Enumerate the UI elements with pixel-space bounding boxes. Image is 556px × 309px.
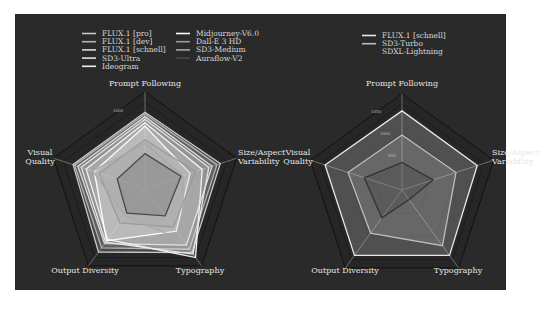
legend-item: Auraflow-V2 [195,54,243,63]
axis-label: Quality [25,157,55,166]
radar-chart-right: 10501000950Prompt FollowingSize/AspectVa… [283,79,540,275]
axis-label: Size/Aspect [492,148,540,157]
tick-label: 1000 [380,131,391,136]
tick-label: 1050 [371,109,382,114]
radar-chart-left: 1000Prompt FollowingSize/AspectVariabili… [25,79,286,275]
legend-item: Ideogram [102,62,139,71]
legend-item: SDXL-Lightning [382,47,443,56]
axis-label: Quality [283,157,313,166]
axis-label: Output Diversity [51,266,119,275]
legend-left: FLUX.1 [pro]FLUX.1 [dev]FLUX.1 [schnell]… [82,29,259,71]
tick-label: 950 [388,153,396,158]
tick-label: 1000 [113,108,124,113]
axis-label: Size/Aspect [238,148,286,157]
axis-label: Visual [285,148,311,157]
axis-label: Typography [176,266,225,275]
radar-figure: FLUX.1 [pro]FLUX.1 [dev]FLUX.1 [schnell]… [0,0,556,309]
axis-label: Visual [27,148,53,157]
axis-label: Variability [491,157,534,166]
axis-label: Prompt Following [366,79,438,88]
axis-label: Output Diversity [311,266,379,275]
legend-right: FLUX.1 [schnell]SD3-TurboSDXL-Lightning [362,31,446,56]
axis-label: Prompt Following [109,79,181,88]
axis-label: Variability [237,157,280,166]
axis-label: Typography [434,266,483,275]
